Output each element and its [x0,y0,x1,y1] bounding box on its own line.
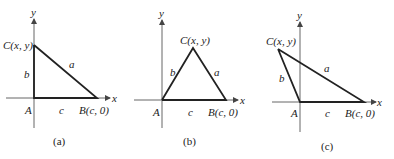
caption: (b) [183,135,196,148]
y-axis-label: y [296,9,302,21]
triangle [34,45,97,98]
side-a-label: a [214,66,220,78]
vertex-a-label: A [152,106,160,118]
panel-b: y x C(x, y) A B(c, 0) b a c (b) [134,7,245,148]
side-b-label: b [279,72,285,84]
y-axis-label: y [30,6,36,18]
vertex-b-label: B(c, 0) [345,107,375,120]
triangle-diagrams: y x C(x, y) A B(c, 0) b a c (a) y x C(x,… [0,0,394,159]
vertex-c-label: C(x, y) [266,35,296,48]
vertex-a-label: A [24,104,32,116]
side-c-label: c [59,104,64,116]
triangle [278,49,364,102]
side-c-label: c [188,106,193,118]
y-axis-label: y [158,7,164,19]
side-b-label: b [24,68,30,80]
x-axis-label: x [376,96,382,108]
caption: (c) [321,140,334,153]
x-axis-label: x [111,92,117,104]
panel-a: y x C(x, y) A B(c, 0) b a c (a) [3,6,117,148]
vertex-b-label: B(c, 0) [79,104,109,117]
side-a-label: a [324,62,330,74]
vertex-c-label: C(x, y) [3,39,33,52]
side-a-label: a [69,58,75,70]
vertex-c-label: C(x, y) [180,34,210,47]
vertex-b-label: B(c, 0) [208,106,238,119]
x-axis-label: x [239,94,245,106]
vertex-a-label: A [290,107,298,119]
panel-c: y x C(x, y) A B(c, 0) b a c (c) [266,9,382,153]
caption: (a) [53,135,66,148]
side-c-label: c [325,107,330,119]
side-b-label: b [170,66,176,78]
